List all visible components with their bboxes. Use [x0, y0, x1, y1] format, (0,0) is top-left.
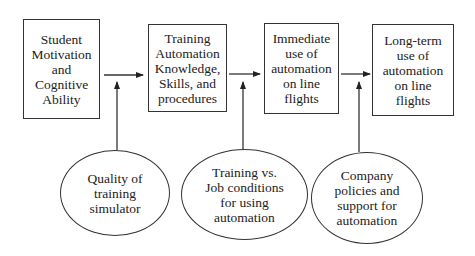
box-label: Training Automation Knowledge, Skills, a… [155, 31, 221, 106]
box-long-term-use: Long-term use of automation on line flig… [372, 24, 454, 116]
ellipse-label: Company policies and support for automat… [335, 168, 400, 228]
ellipse-training-vs-job: Training vs. Job conditions for using au… [181, 149, 308, 240]
ellipse-company-policies: Company policies and support for automat… [311, 152, 423, 244]
box-training-automation: Training Automation Knowledge, Skills, a… [148, 24, 227, 112]
box-label: Student Motivation and Cognitive Ability [32, 32, 92, 107]
box-label: Immediate use of automation on line flig… [271, 31, 332, 106]
box-student-motivation: Student Motivation and Cognitive Ability [23, 19, 100, 119]
ellipse-label: Training vs. Job conditions for using au… [205, 165, 283, 225]
ellipse-simulator-quality: Quality of training simulator [60, 150, 170, 236]
ellipse-label: Quality of training simulator [87, 171, 142, 216]
diagram-canvas: Student Motivation and Cognitive Ability… [0, 0, 475, 256]
box-immediate-use: Immediate use of automation on line flig… [264, 23, 339, 114]
box-label: Long-term use of automation on line flig… [383, 33, 444, 108]
